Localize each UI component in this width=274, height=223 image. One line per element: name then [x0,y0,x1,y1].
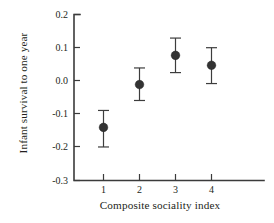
y-tick-label-2: 0.0 [56,75,69,86]
x-tick-label-2: 3 [173,184,178,195]
y-tick-label-4: -0.2 [52,141,68,152]
data-point-marker [207,61,216,70]
y-axis-ticks [74,15,80,181]
plot-area: 0.2 0.1 0.0 -0.1 -0.2 -0.3 1 2 3 4 [0,0,274,223]
x-tick-label-0: 1 [101,184,106,195]
x-axis-ticks [104,174,212,181]
figure-container: Infant survival to one year Composite so… [0,0,274,223]
data-point-marker [171,51,180,60]
x-axis-tick-labels: 1 2 3 4 [101,184,214,195]
data-point-group [170,38,181,73]
data-point-marker [99,123,108,132]
y-axis-tick-labels: 0.2 0.1 0.0 -0.1 -0.2 -0.3 [52,9,68,186]
y-tick-label-0: 0.2 [56,9,69,20]
x-tick-label-1: 2 [137,184,142,195]
axis-spines [74,15,264,181]
data-point-marker [135,80,144,89]
x-tick-label-3: 4 [209,184,214,195]
data-point-group [98,110,109,147]
data-series [98,38,217,147]
y-tick-label-3: -0.1 [52,108,68,119]
y-tick-label-1: 0.1 [56,42,69,53]
data-point-group [206,48,217,84]
y-tick-label-5: -0.3 [52,175,68,186]
data-point-group [134,68,145,101]
